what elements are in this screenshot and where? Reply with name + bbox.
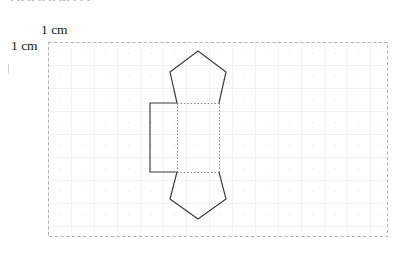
worksheet-page: ı ıı ıı ıı ıı ııı ı ı ı 1 cm 1 cm	[0, 0, 406, 261]
figure-canvas	[0, 0, 406, 261]
grid-area	[48, 42, 388, 237]
